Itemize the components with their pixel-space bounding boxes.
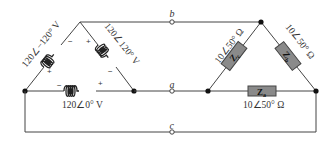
impedance-zb: Zb	[274, 42, 301, 71]
load-node-right	[313, 88, 318, 93]
polarity-plus-left: +	[47, 67, 52, 76]
source-bottom-voltage-label: 120∠0° V	[62, 100, 103, 110]
terminal-c-label: c	[170, 120, 175, 131]
polarity-minus-bottom: −	[57, 81, 62, 90]
terminal-b	[170, 20, 174, 24]
source-left-wire-lower	[25, 67, 44, 91]
source-delta: + − + − − + 120∠−120° V 120∠120° V 120∠0…	[20, 19, 142, 110]
transmission-lines: b a c	[25, 8, 316, 134]
impedance-za: Za	[248, 86, 276, 98]
load-node-left	[205, 88, 210, 93]
polarity-minus-left: −	[68, 37, 73, 46]
polarity-minus-right: −	[108, 67, 113, 76]
source-right-wire-lower	[116, 67, 134, 91]
inductor-coil-icon-bottom	[64, 86, 79, 97]
polarity-plus-bottom: +	[98, 79, 103, 88]
load-delta: Zc 10∠50° Ω Zb 10∠50° Ω Za 10∠50° Ω	[205, 19, 318, 110]
inductor-coil-icon-right	[94, 42, 112, 61]
terminal-a-label: a	[170, 79, 175, 90]
load-node-top	[258, 19, 263, 24]
polarity-plus-right: +	[86, 37, 91, 46]
impedance-za-value: 10∠50° Ω	[243, 100, 284, 110]
three-phase-circuit-diagram: + − + − − + 120∠−120° V 120∠120° V 120∠0…	[0, 0, 336, 143]
source-right-voltage-label: 120∠120° V	[102, 21, 141, 67]
terminal-b-label: b	[170, 8, 175, 19]
